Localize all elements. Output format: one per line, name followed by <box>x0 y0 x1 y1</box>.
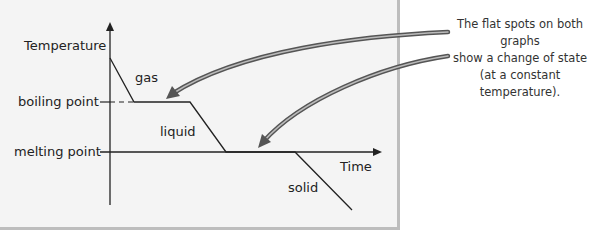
pointer-arrow-melting <box>258 56 448 148</box>
boiling-point-label: boiling point <box>18 94 99 109</box>
x-axis-label: Time <box>339 159 372 174</box>
y-axis-label: Temperature <box>23 38 106 53</box>
annotation-note: The flat spots on both graphs show a cha… <box>440 16 600 101</box>
annotation-line-1: The flat spots on both graphs <box>440 16 600 50</box>
annotation-line-2: show a change of state <box>440 50 600 67</box>
y-axis-arrow-icon <box>106 22 114 31</box>
liquid-label: liquid <box>160 124 196 139</box>
annotation-line-3: (at a constant temperature). <box>440 67 600 101</box>
melting-point-label: melting point <box>14 144 101 159</box>
gas-label: gas <box>135 70 158 85</box>
x-axis-arrow-icon <box>373 148 382 156</box>
solid-label: solid <box>288 180 318 195</box>
